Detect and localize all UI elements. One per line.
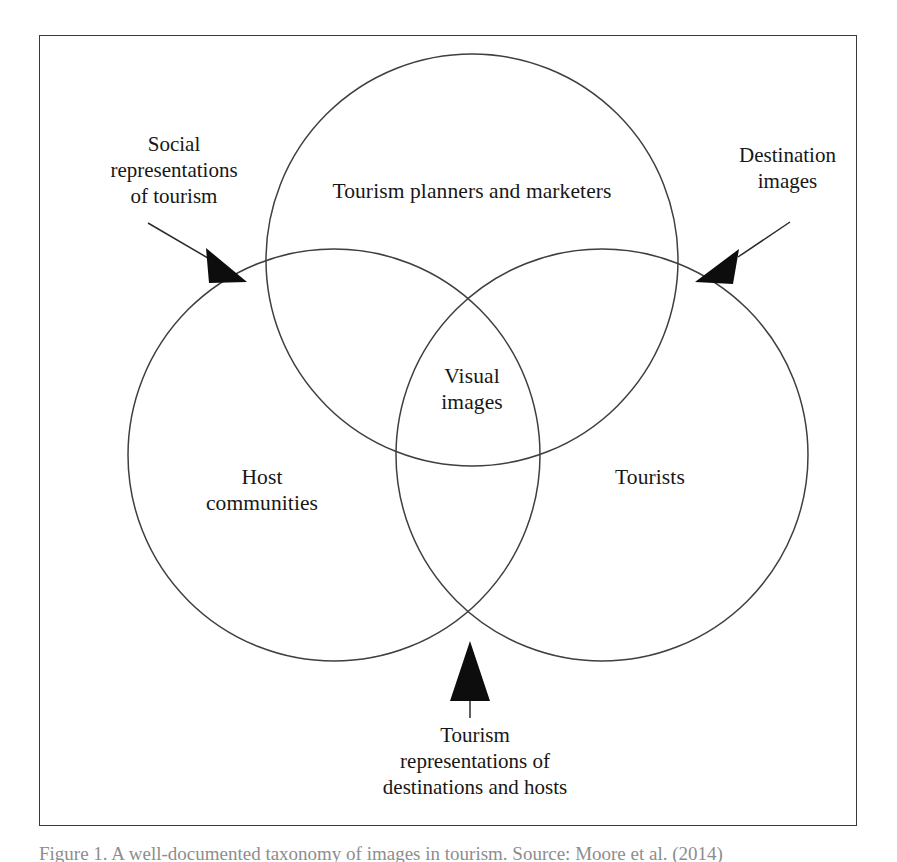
venn-label-right-circle: Tourists [540, 464, 760, 490]
figure-stage: Tourism planners and marketers Visual im… [0, 0, 897, 862]
figure-caption-text: Figure 1. A well-documented taxonomy of … [39, 845, 859, 862]
venn-label-left-circle: Host communities [152, 464, 372, 516]
venn-label-top-circle: Tourism planners and marketers [272, 178, 672, 204]
callout-label-destination-images: Destination images [700, 142, 875, 194]
callout-label-tourism-representations: Tourism representations of destinations … [310, 722, 640, 800]
venn-label-center-intersection: Visual images [382, 363, 562, 415]
figure-caption: Figure 1. A well-documented taxonomy of … [39, 845, 859, 862]
callout-label-social-representations: Social representations of tourism [64, 131, 284, 209]
